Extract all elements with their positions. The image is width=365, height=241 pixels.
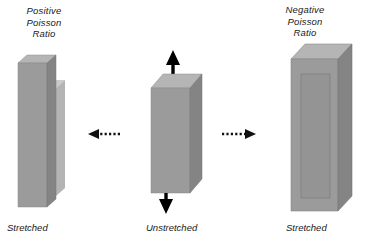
center-panel-bottom-label: Unstretched xyxy=(146,222,197,233)
right-panel-bottom-label: Stretched xyxy=(286,222,327,233)
right-stretched-block xyxy=(291,44,352,211)
right-panel-title: Negative Poisson Ratio xyxy=(262,4,348,39)
left-panel-graphic xyxy=(18,55,65,207)
right-panel-graphic xyxy=(291,44,352,211)
left-panel-title: Positive Poisson Ratio xyxy=(4,5,84,40)
center-panel-graphic xyxy=(151,50,202,214)
right-transition-arrow xyxy=(222,129,256,139)
left-transition-arrow xyxy=(88,129,120,139)
left-panel-bottom-label: Stretched xyxy=(7,222,48,233)
stretch-down-arrow xyxy=(159,193,173,214)
figure-canvas: Positive Poisson Ratio Negative Poisson … xyxy=(0,0,365,241)
center-unstretched-block xyxy=(151,74,202,193)
left-stretched-block xyxy=(18,55,56,207)
